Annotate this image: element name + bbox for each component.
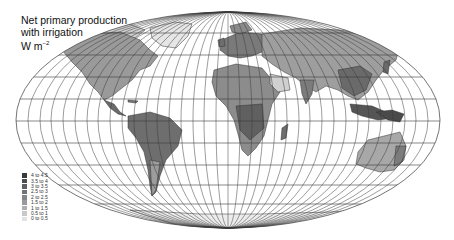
legend-swatch bbox=[22, 173, 27, 178]
legend-item: 0 to 0.5 bbox=[22, 216, 48, 221]
landmasses bbox=[62, 22, 420, 228]
title-line-1: Net primary production bbox=[21, 15, 127, 27]
legend-swatch bbox=[22, 179, 27, 184]
map-legend: 4 to 4.5 3.5 to 4 3 to 3.5 2.5 to 3 2 to… bbox=[22, 173, 48, 222]
legend-swatch bbox=[22, 211, 27, 216]
antarctica bbox=[130, 210, 360, 228]
legend-swatch bbox=[22, 195, 27, 200]
legend-swatch bbox=[22, 217, 27, 222]
greenland bbox=[150, 22, 192, 48]
legend-swatch bbox=[22, 200, 27, 205]
legend-swatch bbox=[22, 206, 27, 211]
map-title: Net primary production with irrigation W… bbox=[21, 15, 127, 52]
npp-map-figure: Net primary production with irrigation W… bbox=[0, 0, 454, 240]
legend-swatch bbox=[22, 190, 27, 195]
title-unit: W m−2 bbox=[21, 38, 127, 52]
title-line-2: with irrigation bbox=[21, 27, 127, 39]
legend-swatch bbox=[22, 184, 27, 189]
